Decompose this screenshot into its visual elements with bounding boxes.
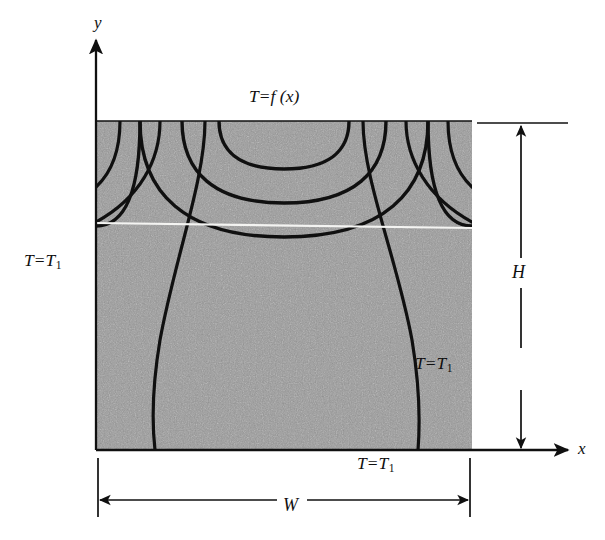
boundary-label-bottom-value: T	[379, 453, 389, 473]
boundary-label-right: T=T1	[415, 355, 453, 375]
boundary-label-right-T: T	[415, 353, 425, 373]
boundary-label-right-sub: 1	[446, 362, 452, 374]
boundary-label-right-value: T	[437, 353, 447, 373]
boundary-label-top: T=f (x)	[249, 88, 299, 106]
x-axis-label: x	[578, 440, 586, 457]
equals-sign-top: =	[259, 86, 271, 106]
boundary-label-top-fx: f (x)	[271, 86, 300, 106]
equals-sign-bottom: =	[367, 453, 379, 473]
equals-sign-right: =	[425, 353, 437, 373]
boundary-label-left-T: T	[24, 250, 34, 270]
y-axis-label: y	[94, 14, 102, 31]
boundary-label-bottom: T=T1	[357, 455, 395, 475]
height-dimension-label: H	[512, 263, 525, 281]
boundary-label-top-text: T	[249, 86, 259, 106]
boundary-label-left-sub: 1	[55, 259, 61, 271]
width-dimension-label: W	[283, 496, 298, 514]
height-dimension	[477, 123, 568, 448]
boundary-label-bottom-sub: 1	[388, 462, 394, 474]
boundary-label-bottom-T: T	[357, 453, 367, 473]
equals-sign-left: =	[34, 250, 46, 270]
figure-container: T=f (x) T=T1 T=T1 T=T1 H W y x	[0, 0, 605, 540]
boundary-label-left-value: T	[46, 250, 56, 270]
boundary-label-left: T=T1	[24, 252, 62, 272]
